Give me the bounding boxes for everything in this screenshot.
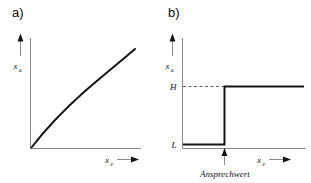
panel-a-characteristic-curve [32,49,136,148]
panel-a-y-axis-symbol: x [13,61,18,71]
panel-b-threshold-annotation: Ansprechwert [199,169,250,179]
panel-b-x-axis-symbol: x [256,155,261,165]
panel-a-x-axis-arrow-icon [117,157,139,163]
panel-b-y-axis-arrow-icon [170,34,176,57]
panel-a: a) x a x e [0,0,155,183]
panel-b: b) x a H L [156,0,311,183]
panel-b-y-axis-subscript: a [171,67,174,73]
panel-a-x-axis-subscript: e [111,161,114,167]
panel-b-plot: x a H L Ansprechwert x e [156,0,311,183]
panel-b-y-axis-symbol: x [165,61,170,71]
panel-b-x-axis-label: x e [256,155,266,167]
panel-a-plot: x a x e [0,0,155,183]
panel-a-y-axis-label: x a [13,61,23,73]
panel-b-threshold-arrow-icon [222,148,228,165]
panel-b-x-axis-subscript: e [263,161,266,167]
panel-b-level-high-label: H [169,82,177,92]
panel-a-y-axis-arrow-icon [18,34,24,57]
panel-b-y-axis-label: x a [165,61,175,73]
panel-a-x-axis-symbol: x [104,155,109,165]
panel-a-x-axis-label: x e [104,155,114,167]
panel-b-x-axis-arrow-icon [269,157,291,163]
panel-b-level-low-label: L [171,140,177,150]
figure-container: a) x a x e [0,0,311,183]
panel-b-step-characteristic [183,87,304,145]
panel-a-y-axis-subscript: a [19,67,22,73]
